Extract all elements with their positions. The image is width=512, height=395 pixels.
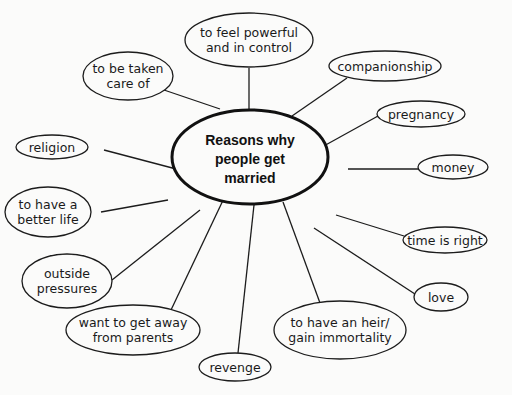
node-label: love bbox=[428, 290, 455, 305]
node-powerful: to feel powerfuland in control bbox=[185, 13, 313, 67]
node-label: care of bbox=[106, 76, 150, 91]
node-love: love bbox=[414, 283, 468, 311]
connector-line-taken-care bbox=[164, 90, 220, 109]
node-label: revenge bbox=[209, 360, 260, 375]
mind-map: to feel powerfuland in controlcompanions… bbox=[0, 0, 512, 395]
node-label: time is right bbox=[407, 233, 483, 248]
node-label: to have a bbox=[19, 197, 78, 212]
node-revenge: revenge bbox=[199, 353, 271, 381]
node-label: religion bbox=[29, 140, 75, 155]
node-label: from parents bbox=[93, 330, 174, 345]
node-time-is-right: time is right bbox=[403, 227, 487, 253]
connector-line-revenge bbox=[238, 205, 254, 353]
central-topic-line: Reasons why bbox=[205, 132, 295, 148]
node-get-away: want to get awayfrom parents bbox=[66, 305, 200, 355]
connector-line-companionship bbox=[292, 78, 347, 116]
node-taken-care: to be takencare of bbox=[83, 52, 173, 100]
node-better-life: to have abetter life bbox=[5, 187, 91, 237]
central-topic-line: married bbox=[224, 170, 275, 186]
connector-line-love bbox=[314, 228, 418, 296]
connector-line-heir bbox=[283, 202, 320, 303]
central-topic: Reasons why people get married bbox=[172, 110, 328, 204]
node-outside-pressures: outsidepressures bbox=[22, 254, 112, 308]
central-topic-line: people get bbox=[215, 151, 285, 167]
node-money: money bbox=[418, 155, 488, 179]
node-label: better life bbox=[17, 212, 79, 227]
node-label: pregnancy bbox=[388, 107, 455, 122]
node-label: money bbox=[432, 160, 475, 175]
connector-line-better-life bbox=[101, 200, 168, 212]
node-label: want to get away bbox=[79, 315, 188, 330]
node-label: to be taken bbox=[92, 61, 163, 76]
node-religion: religion bbox=[16, 135, 88, 159]
node-label: to have an heir/ bbox=[290, 315, 390, 330]
node-label: to feel powerful bbox=[200, 25, 298, 40]
node-label: and in control bbox=[206, 40, 292, 55]
node-pregnancy: pregnancy bbox=[377, 101, 465, 127]
node-label: pressures bbox=[37, 281, 98, 296]
node-companionship: companionship bbox=[329, 51, 441, 81]
connector-line-religion bbox=[104, 150, 180, 170]
connector-line-pregnancy bbox=[322, 116, 378, 147]
node-label: companionship bbox=[337, 59, 432, 74]
node-label: gain immortality bbox=[288, 330, 392, 345]
node-label: outside bbox=[44, 266, 90, 281]
node-heir: to have an heir/gain immortality bbox=[274, 301, 406, 359]
connector-line-outside-pressures bbox=[112, 210, 200, 280]
connector-line-time-is-right bbox=[336, 215, 404, 236]
